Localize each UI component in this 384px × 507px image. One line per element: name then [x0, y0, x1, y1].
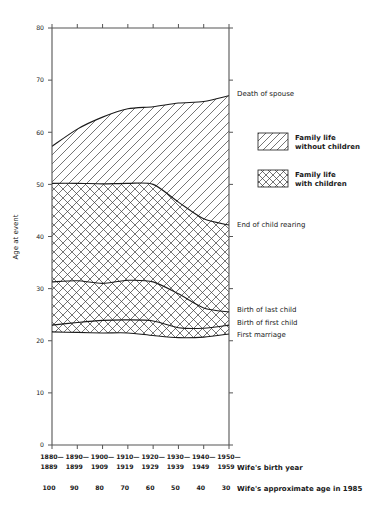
x-tick-label-year-end: 1919 [116, 463, 133, 470]
y-tick-label: 20 [36, 337, 44, 344]
x-tick-label-year-end: 1939 [167, 463, 184, 470]
x-tick-label-year-start: 1910— [116, 453, 139, 460]
x-tick-label-year-start: 1950— [217, 453, 240, 460]
curve-label-end-of-child-rearing: End of child rearing [237, 221, 305, 229]
x-tick-label-year-start: 1890— [66, 453, 89, 460]
x-tick-label-approx-age: 80 [95, 484, 104, 491]
x-tick-label-approx-age: 30 [222, 484, 231, 491]
curve-label-death-of-spouse: Death of spouse [237, 90, 294, 98]
x-axis-title-birth-year: Wife's birth year [237, 464, 303, 472]
chart-container: 01020304050607080 1880—18891001890—18999… [0, 0, 384, 507]
x-tick-label-year-end: 1959 [217, 463, 234, 470]
legend-swatch-cross-hatch-icon [258, 170, 288, 187]
x-tick-label-year-start: 1920— [141, 453, 164, 460]
x-tick-label-approx-age: 70 [121, 484, 130, 491]
legend-label-with-children-line1: Family life [295, 171, 336, 179]
x-tick-label-year-end: 1909 [91, 463, 108, 470]
x-tick-label-year-start: 1930— [167, 453, 190, 460]
x-tick-label-year-end: 1929 [142, 463, 159, 470]
x-tick-label-year-start: 1900— [91, 453, 114, 460]
y-axis-title: Age at event [12, 214, 20, 259]
y-tick-label: 70 [36, 76, 44, 83]
curve-label-birth-of-first-child: Birth of first child [237, 319, 298, 327]
x-tick-label-approx-age: 100 [43, 484, 57, 491]
band-group [52, 96, 229, 338]
x-tick-label-year-start: 1940— [192, 453, 215, 460]
y-tick-label: 10 [36, 389, 44, 396]
x-tick-label-year-end: 1899 [66, 463, 83, 470]
legend-label-with-children-line2: with children [295, 180, 347, 188]
x-tick-label-approx-age: 50 [171, 484, 180, 491]
y-tick-label: 60 [36, 129, 44, 136]
y-tick-label: 0 [40, 441, 44, 448]
x-tick-label-year-end: 1949 [192, 463, 209, 470]
y-tick-label: 50 [36, 181, 44, 188]
x-tick-label-approx-age: 90 [70, 484, 79, 491]
x-tick-label-approx-age: 40 [196, 484, 205, 491]
y-tick-label: 30 [36, 285, 44, 292]
x-tick-label-year-start: 1880— [40, 453, 63, 460]
x-tick-label-approx-age: 60 [146, 484, 155, 491]
y-tick-label: 40 [36, 233, 44, 240]
age-at-event-area-chart: 01020304050607080 1880—18891001890—18999… [0, 0, 384, 507]
y-tick-label: 80 [36, 24, 44, 31]
legend-label-without-children-line2: without children [295, 143, 360, 151]
curve-label-first-marriage: First marriage [237, 331, 286, 339]
legend-swatch-diagonal-hatch-icon [258, 133, 288, 150]
x-axis-title-approx-age: Wife's approximate age in 1985 [237, 485, 362, 493]
x-tick-label-year-end: 1889 [40, 463, 57, 470]
curve-label-birth-of-last-child: Birth of last child [237, 306, 296, 314]
legend-label-without-children-line1: Family life [295, 134, 336, 142]
